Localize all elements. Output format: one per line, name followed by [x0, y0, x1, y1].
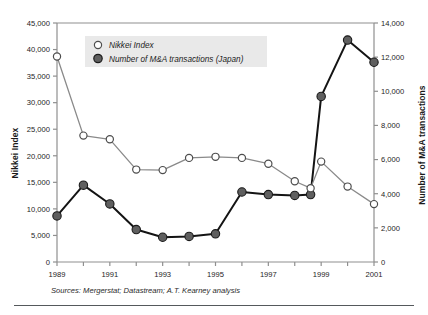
series-manda-transactions-point [317, 92, 325, 100]
series-nikkei-index-point [344, 183, 351, 190]
x-axis-tick-label: 2001 [366, 270, 383, 279]
left-axis-tick-label: 25,000 [27, 125, 50, 134]
left-axis-tick-label: 40,000 [27, 45, 50, 54]
series-nikkei-index-point [238, 154, 245, 161]
series-nikkei-index-point [80, 132, 87, 139]
right-axis-tick-label: 0 [381, 258, 385, 267]
source-note: Sources: Mergerstat; Datastream; A.T. Ke… [51, 286, 240, 295]
x-axis-tick-label: 1999 [313, 270, 330, 279]
left-axis-title: Nikkei Index [10, 93, 20, 213]
series-nikkei-index-point [370, 201, 377, 208]
left-axis-tick-label: 5,000 [31, 231, 50, 240]
series-nikkei-index-point [159, 167, 166, 174]
x-axis-tick-label: 1989 [49, 270, 66, 279]
series-manda-transactions-point [53, 212, 61, 220]
series-nikkei-index-point [291, 178, 298, 185]
series-nikkei-index [53, 53, 377, 208]
series-nikkei-index-point [307, 185, 314, 192]
series-manda-transactions-point [264, 190, 272, 198]
series-nikkei-index-point [185, 154, 192, 161]
right-axis-tick-label: 2,000 [381, 224, 400, 233]
series-manda-transactions-point [370, 58, 378, 66]
chart-legend: Nikkei IndexNumber of M&A transactions (… [85, 36, 267, 67]
left-axis-tick-label: 15,000 [27, 178, 50, 187]
series-nikkei-index-point [106, 136, 113, 143]
series-manda-transactions-point [132, 225, 140, 233]
series-nikkei-index-point [212, 153, 219, 160]
series-manda-transactions-point [343, 36, 351, 44]
right-axis-tick-label: 12,000 [381, 53, 404, 62]
series-nikkei-index-line [57, 56, 374, 204]
left-axis-tick-label: 45,000 [27, 19, 50, 28]
left-axis-tick-label: 35,000 [27, 72, 50, 81]
legend-item-label: Nikkei Index [109, 41, 155, 50]
chart-figure: 05,00010,00015,00020,00025,00030,00035,0… [0, 0, 428, 315]
legend-filled-circle-marker [94, 54, 102, 62]
right-axis-tick-label: 10,000 [381, 87, 404, 96]
left-axis-tick-label: 30,000 [27, 98, 50, 107]
series-manda-transactions-point [238, 188, 246, 196]
left-axis-tick-label: 10,000 [27, 205, 50, 214]
right-axis-title: Number of M&A transactions [417, 70, 427, 220]
x-axis-tick-label: 1991 [101, 270, 118, 279]
x-axis-tick-label: 1997 [260, 270, 277, 279]
right-axis-tick-label: 6,000 [381, 155, 400, 164]
legend-open-circle-marker [94, 41, 101, 48]
series-manda-transactions-point [79, 181, 87, 189]
right-axis-tick-label: 4,000 [381, 190, 400, 199]
series-nikkei-index-point [133, 166, 140, 173]
series-nikkei-index-point [318, 158, 325, 165]
series-manda-transactions-point [106, 200, 114, 208]
right-axis-tick-label: 14,000 [381, 19, 404, 28]
series-nikkei-index-point [53, 53, 60, 60]
series-nikkei-index-point [265, 160, 272, 167]
series-manda-transactions-point [158, 233, 166, 241]
x-axis-tick-label: 1993 [154, 270, 171, 279]
bottom-divider [14, 305, 414, 306]
legend-item-label: Number of M&A transactions (Japan) [109, 55, 244, 64]
series-manda-transactions-point [211, 230, 219, 238]
dual-axis-line-chart: 05,00010,00015,00020,00025,00030,00035,0… [0, 0, 428, 315]
x-axis-tick-label: 1995 [207, 270, 224, 279]
left-axis-tick-label: 20,000 [27, 152, 50, 161]
series-manda-transactions-point [185, 232, 193, 240]
left-axis-tick-label: 0 [46, 258, 50, 267]
series-manda-transactions-point [291, 191, 299, 199]
right-axis-tick-label: 8,000 [381, 121, 400, 130]
